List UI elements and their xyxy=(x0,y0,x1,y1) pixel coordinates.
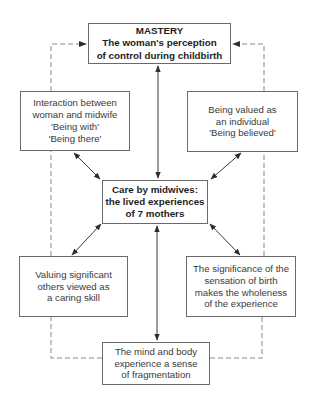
node-fragmentation-line: experience a sense xyxy=(114,358,197,370)
node-significant-others: Valuing significant others viewed as a c… xyxy=(19,256,128,317)
node-interaction: Interaction between woman and midwife 'B… xyxy=(20,91,130,151)
node-valued-line: 'Being believed' xyxy=(209,127,276,139)
node-interaction-line: Interaction between xyxy=(33,97,117,109)
diagram-canvas: MASTERY The woman's perception of contro… xyxy=(0,0,313,400)
node-care-line: of 7 mothers xyxy=(126,208,185,220)
node-fragmentation-line: The mind and body xyxy=(115,346,197,358)
node-mastery-title: MASTERY xyxy=(136,25,184,37)
node-valued-line: Being valued as xyxy=(208,104,276,116)
node-sensation-line: sensation of birth xyxy=(204,275,277,287)
node-care: Care by midwives: the lived experiences … xyxy=(102,180,208,224)
node-sensation: The significance of the sensation of bir… xyxy=(186,256,296,317)
arrow-care-interaction xyxy=(74,153,100,179)
node-sensation-line: The significance of the xyxy=(193,263,289,275)
node-significant-others-line: a caring skill xyxy=(47,292,100,304)
node-mastery: MASTERY The woman's perception of contro… xyxy=(88,23,231,64)
node-mastery-line: The woman's perception xyxy=(102,37,216,49)
node-interaction-line: 'Being there' xyxy=(49,133,102,145)
node-fragmentation: The mind and body experience a sense of … xyxy=(102,342,210,385)
node-valued-line: an individual xyxy=(216,116,269,128)
arrow-care-sensation xyxy=(210,224,240,255)
node-valued: Being valued as an individual 'Being bel… xyxy=(187,91,298,152)
node-mastery-line: of control during childbirth xyxy=(97,50,223,62)
node-care-line: Care by midwives: xyxy=(112,184,198,196)
node-interaction-line: 'Being with' xyxy=(51,121,99,133)
arrow-care-significant-others xyxy=(72,224,101,255)
node-significant-others-line: others viewed as xyxy=(38,281,110,293)
arrow-care-valued xyxy=(211,153,241,179)
node-interaction-line: woman and midwife xyxy=(33,109,118,121)
node-sensation-line: makes the wholeness xyxy=(195,287,287,299)
node-care-line: the lived experiences xyxy=(105,196,204,208)
node-sensation-line: of the experience xyxy=(204,298,278,310)
node-significant-others-line: Valuing significant xyxy=(35,269,112,281)
node-fragmentation-line: of fragmentation xyxy=(121,369,190,381)
